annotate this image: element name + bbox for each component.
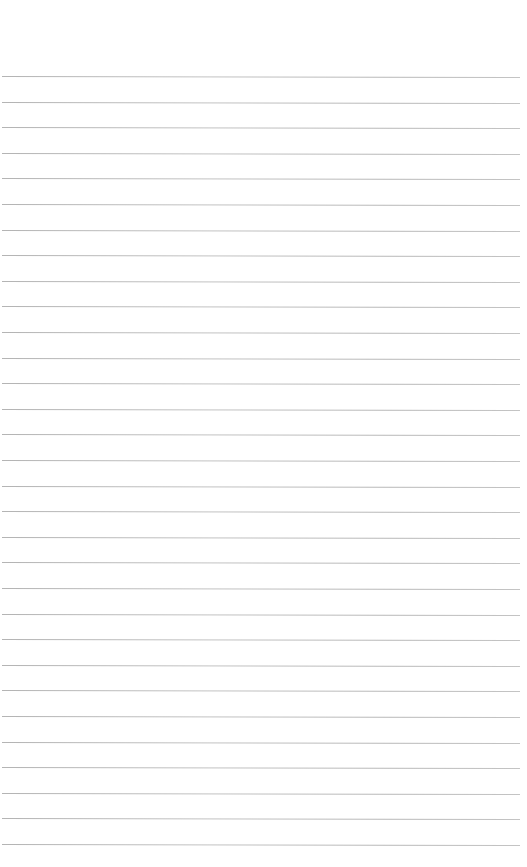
ruled-line	[2, 281, 520, 283]
ruled-line	[2, 767, 520, 769]
ruled-line	[2, 306, 520, 308]
ruled-line	[2, 793, 520, 795]
ruled-line	[2, 358, 520, 360]
ruled-line	[2, 230, 520, 232]
ruled-line	[2, 204, 520, 206]
ruled-line	[2, 537, 520, 539]
ruled-line	[2, 434, 520, 436]
ruled-line	[2, 562, 520, 564]
ruled-line	[2, 486, 520, 488]
ruled-line	[2, 153, 520, 155]
ruled-line	[2, 690, 520, 692]
ruled-line	[2, 255, 520, 257]
ruled-line	[2, 511, 520, 513]
ruled-line	[2, 742, 520, 744]
ruled-line	[2, 178, 520, 180]
ruled-line	[2, 102, 520, 104]
ruled-line	[2, 76, 520, 78]
ruled-line	[2, 665, 520, 667]
ruled-line	[2, 844, 520, 846]
ruled-line	[2, 818, 520, 820]
ruled-line	[2, 639, 520, 641]
lined-paper-page	[0, 0, 527, 867]
ruled-line	[2, 409, 520, 411]
ruled-line	[2, 127, 520, 129]
ruled-line	[2, 460, 520, 462]
ruled-line	[2, 332, 520, 334]
ruled-line	[2, 383, 520, 385]
ruled-line	[2, 614, 520, 616]
ruled-line	[2, 588, 520, 590]
ruled-line	[2, 716, 520, 718]
